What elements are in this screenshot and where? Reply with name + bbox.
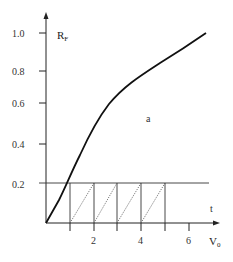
y-ticks bbox=[39, 33, 46, 144]
y-tick-label: 0.2 bbox=[12, 179, 25, 190]
y-tick-label: 0.6 bbox=[12, 98, 25, 109]
chart-canvas: 1.0 0.8 0.6 0.4 0.2 RF 2 4 6 V0 t a bbox=[0, 0, 233, 262]
x-axis-label: V0 bbox=[209, 235, 221, 249]
x-tick-label: 4 bbox=[138, 235, 143, 246]
sawtooth-ramps bbox=[70, 183, 165, 223]
y-axis-label: RF bbox=[57, 29, 68, 43]
t-label: t bbox=[210, 203, 213, 214]
x-axis-arrow-icon bbox=[213, 221, 220, 226]
sawtooth-resets bbox=[70, 183, 165, 223]
y-tick-label: 1.0 bbox=[12, 28, 25, 39]
y-axis-arrow-icon bbox=[44, 12, 49, 19]
x-tick-label: 6 bbox=[186, 235, 191, 246]
x-ticks bbox=[70, 223, 189, 231]
x-tick-label: 2 bbox=[91, 235, 96, 246]
y-tick-label: 0.4 bbox=[12, 139, 25, 150]
y-tick-label: 0.8 bbox=[12, 66, 25, 77]
curve-label: a bbox=[146, 113, 151, 124]
